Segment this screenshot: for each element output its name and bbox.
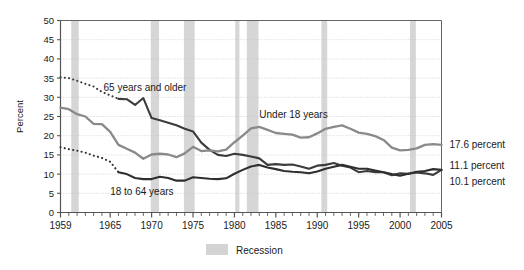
recession-band: [235, 21, 239, 213]
x-tick-label: 2005: [430, 220, 453, 231]
x-tick-label: 1985: [265, 220, 288, 231]
x-tick-label: 1990: [306, 220, 329, 231]
y-tick-label: 35: [43, 73, 54, 84]
legend-label-recession: Recession: [236, 245, 283, 256]
x-tick-label: 1970: [140, 220, 163, 231]
legend-swatch-recession: [206, 244, 228, 255]
x-tick-label: 1975: [182, 220, 205, 231]
x-tick-label: 1980: [223, 220, 246, 231]
y-axis-ticks: 05101520253035404550: [43, 15, 60, 218]
x-tick-label: 1995: [348, 220, 371, 231]
series-label-under-18: Under 18 years: [259, 109, 327, 120]
x-tick-label: 2000: [389, 220, 412, 231]
x-axis-ticks: 1959196519701975198019851990199520002005: [49, 213, 453, 231]
y-tick-label: 30: [43, 92, 54, 103]
end-label-18-to-64: 10.1 percent: [450, 176, 506, 187]
poverty-rate-chart: 05101520253035404550 1959196519701975198…: [0, 0, 524, 270]
y-tick-label: 5: [49, 188, 54, 199]
y-axis-title-text: Percent: [14, 100, 25, 133]
chart-canvas: 05101520253035404550 1959196519701975198…: [0, 0, 524, 270]
x-tick-label: 1959: [49, 220, 72, 231]
chart-legend: Recession: [206, 244, 283, 256]
series-label-65-plus: 65 years and older: [104, 82, 188, 93]
y-tick-label: 50: [43, 15, 54, 26]
series-line-dotted: [61, 147, 119, 172]
y-tick-label: 15: [43, 149, 54, 160]
series-label-18-to-64: 18 to 64 years: [110, 186, 173, 197]
series-line-solid: [118, 165, 441, 181]
y-tick-label: 45: [43, 34, 54, 45]
y-tick-label: 25: [43, 111, 54, 122]
y-tick-label: 10: [43, 169, 54, 180]
end-value-labels: 17.6 percent11.1 percent10.1 percent: [450, 139, 506, 186]
y-tick-label: 40: [43, 53, 54, 64]
y-axis-title: Percent: [14, 100, 25, 133]
y-tick-label: 20: [43, 130, 54, 141]
end-label-under-18: 17.6 percent: [450, 139, 506, 150]
end-label-65-plus: 11.1 percent: [450, 160, 505, 171]
y-tick-label: 0: [49, 207, 54, 218]
recession-band: [71, 21, 78, 213]
x-tick-label: 1965: [99, 220, 122, 231]
